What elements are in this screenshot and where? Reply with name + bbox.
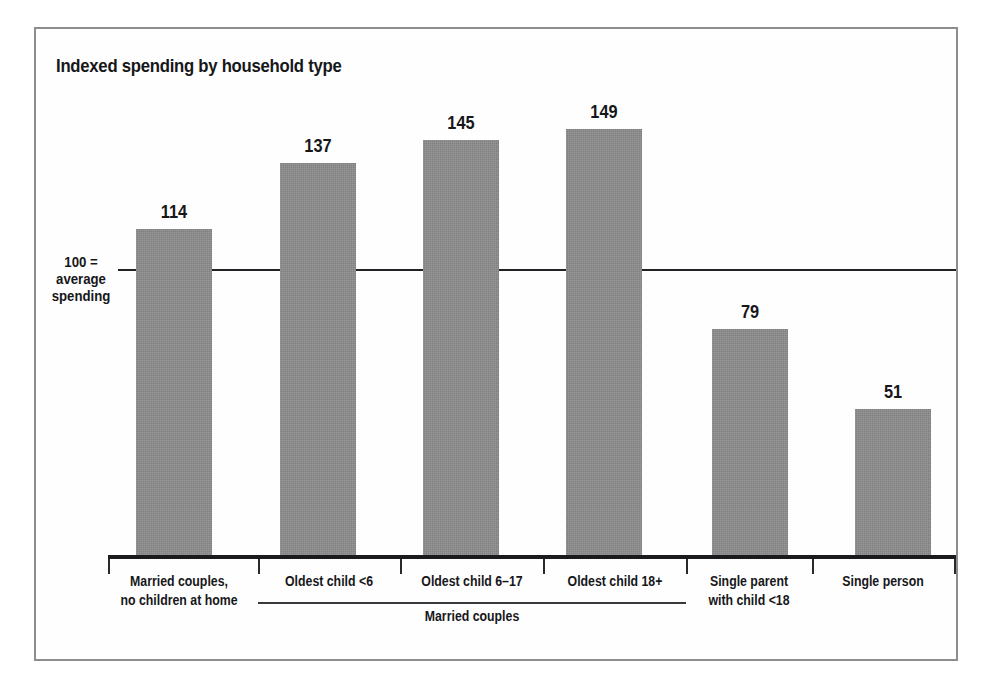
bar-value-label: 145 (420, 112, 503, 134)
category-label-line: Single person (819, 572, 947, 591)
category-label: Single parent with child <18 (692, 572, 806, 610)
bar[interactable] (855, 409, 931, 555)
category-label: Oldest child 6–17 (407, 572, 537, 591)
axis-tick (108, 559, 110, 574)
category-label: Single person (819, 572, 947, 591)
category-label-line: no children at home (113, 591, 245, 610)
bar[interactable] (566, 129, 642, 555)
category-label-line: Oldest child <6 (265, 572, 393, 591)
axis-tick (812, 559, 814, 574)
bar[interactable] (423, 140, 499, 555)
axis-tick (543, 559, 545, 574)
group-bracket-label: Married couples (284, 608, 661, 624)
category-label: Married couples, no children at home (113, 572, 245, 610)
reference-label-line-1: 100 = (50, 253, 112, 270)
bar-value-label: 137 (277, 135, 360, 157)
bar-value-label: 114 (133, 201, 216, 223)
category-label: Oldest child <6 (265, 572, 393, 591)
axis-tick (258, 559, 260, 574)
plot-area: 100 = average spending 114 137 145 149 7… (0, 0, 986, 693)
bar[interactable] (136, 229, 212, 555)
category-label-line: with child <18 (692, 591, 806, 610)
category-label-line: Oldest child 18+ (550, 572, 680, 591)
bar-value-label: 51 (852, 381, 935, 403)
bar-value-label: 149 (563, 101, 646, 123)
bar-value-label: 79 (709, 301, 792, 323)
category-label-line: Oldest child 6–17 (407, 572, 537, 591)
category-label-line: Married couples, (113, 572, 245, 591)
x-axis-baseline (108, 555, 956, 559)
bar[interactable] (280, 163, 356, 555)
category-label: Oldest child 18+ (550, 572, 680, 591)
reference-label-line-2: average (50, 270, 112, 287)
reference-label-line-3: spending (50, 287, 112, 304)
axis-tick (954, 559, 956, 574)
bar[interactable] (712, 329, 788, 555)
chart-screenshot: Indexed spending by household type 100 =… (0, 0, 986, 693)
reference-line-100 (118, 269, 956, 271)
reference-line-label: 100 = average spending (50, 253, 112, 304)
axis-tick (400, 559, 402, 574)
group-bracket-line (258, 602, 686, 604)
category-label-line: Single parent (692, 572, 806, 591)
axis-tick (686, 559, 688, 574)
